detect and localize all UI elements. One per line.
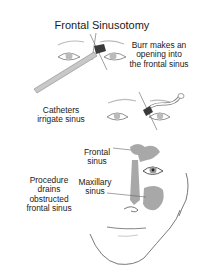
cheek-contour: [179, 173, 188, 216]
maxillary-sinus-label: Maxillary sinus: [77, 178, 113, 197]
catheter-caption: Catheters irrigate sinus: [30, 106, 92, 125]
frontal-sinus-label: Frontal sinus: [80, 148, 114, 167]
left-eyebrow: [58, 41, 84, 45]
panel-catheter-illustration: [107, 92, 184, 130]
mouth: [107, 227, 146, 229]
maxillary-sinus-shape: [143, 186, 164, 210]
frontal-sinus-leader: [113, 148, 131, 150]
drainage-caption: Procedure drains obstructed frontal sinu…: [20, 176, 78, 214]
nasal-passage-shape: [130, 160, 140, 205]
right-iris: [110, 53, 117, 60]
left-iris: [66, 53, 73, 60]
jaw-line: [90, 234, 144, 264]
burr-caption: Burr makes an opening into the frontal s…: [118, 41, 200, 69]
panel-burr-illustration: [34, 33, 126, 93]
frontal-sinus-shape: [130, 144, 160, 162]
nostril: [124, 207, 138, 212]
diagram-title: Frontal Sinusotomy: [0, 19, 204, 31]
